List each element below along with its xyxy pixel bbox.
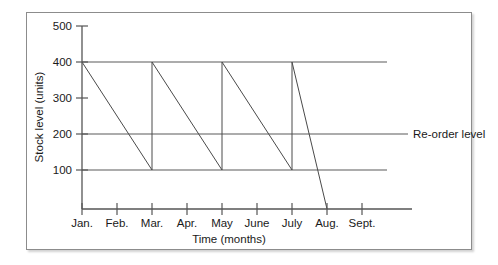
y-axis-title: Stock level (units) — [33, 71, 45, 162]
x-tick-label-may: May — [211, 217, 233, 229]
stock-level-series — [82, 62, 327, 209]
x-tick-label-mar: Mar. — [141, 217, 163, 229]
x-axis-title: Time (months) — [192, 233, 266, 245]
stock-level-polyline — [82, 62, 327, 209]
y-tick-label-100: 100 — [53, 164, 72, 176]
x-tick-label-jan: Jan. — [71, 217, 93, 229]
x-tick-label-july: July — [282, 217, 303, 229]
y-axis-tick-labels: 500 400 300 200 100 — [53, 20, 72, 176]
reference-lines — [82, 62, 408, 170]
y-tick-label-200: 200 — [53, 128, 72, 140]
stock-level-chart: 500 400 300 200 100 Jan. Feb. Mar. Apr. … — [0, 0, 498, 265]
x-axis-tick-labels: Jan. Feb. Mar. Apr. May June July Aug. S… — [71, 217, 375, 229]
y-tick-label-300: 300 — [53, 92, 72, 104]
x-tick-label-june: June — [245, 217, 270, 229]
x-tick-label-sept: Sept. — [349, 217, 376, 229]
x-tick-label-apr: Apr. — [177, 217, 197, 229]
axes — [82, 26, 412, 209]
y-tick-label-500: 500 — [53, 20, 72, 32]
x-tick-label-aug: Aug. — [315, 217, 339, 229]
figure-root: 500 400 300 200 100 Jan. Feb. Mar. Apr. … — [0, 0, 498, 265]
x-tick-label-feb: Feb. — [105, 217, 128, 229]
y-tick-label-400: 400 — [53, 56, 72, 68]
re-order-level-label: Re-order level — [413, 128, 485, 140]
